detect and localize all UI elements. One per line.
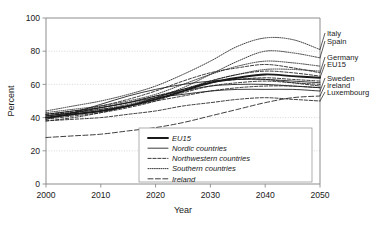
- annotation-label-spain: Spain: [327, 37, 346, 46]
- y-tick-label-100: 100: [26, 13, 41, 23]
- population-projection-line-chart: 020406080100 200020102020203020402050 It…: [0, 0, 370, 228]
- x-axis-title: Year: [174, 205, 192, 215]
- x-tick-label-2050: 2050: [310, 190, 329, 200]
- y-axis-title: Percent: [6, 85, 16, 117]
- x-tick-label-2020: 2020: [146, 190, 165, 200]
- y-tick-label-0: 0: [35, 179, 40, 189]
- y-tick-label-80: 80: [30, 46, 40, 56]
- y-tick-label-20: 20: [30, 146, 40, 156]
- annotation-label-eu15: EU15: [327, 60, 346, 69]
- y-tick-label-40: 40: [30, 113, 40, 123]
- x-tick-label-2010: 2010: [91, 190, 110, 200]
- y-tick-label-60: 60: [30, 80, 40, 90]
- legend-label-southern-countries: Southern countries: [172, 164, 236, 173]
- legend-label-northwestern-countries: Northwestern countries: [172, 154, 250, 163]
- x-tick-label-2000: 2000: [36, 190, 55, 200]
- chart-legend: EU15Nordic countriesNorthwestern countri…: [139, 128, 312, 184]
- x-tick-label-2030: 2030: [201, 190, 220, 200]
- legend-label-ireland: Ireland: [172, 175, 196, 184]
- legend-label-eu15: EU15: [172, 134, 192, 143]
- annotation-label-luxembourg: Luxembourg: [327, 88, 369, 97]
- chart-container: 020406080100 200020102020203020402050 It…: [0, 0, 370, 228]
- x-tick-label-2040: 2040: [256, 190, 275, 200]
- legend-label-nordic-countries: Nordic countries: [172, 144, 227, 153]
